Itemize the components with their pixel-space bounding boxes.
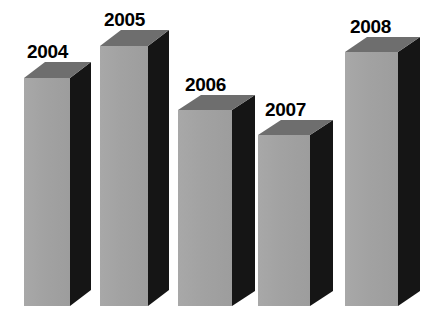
- bar-side-face-2008: [398, 37, 420, 306]
- bar-front-face-2008: [345, 52, 398, 306]
- bar-label-2005: 2005: [104, 10, 145, 29]
- bar-chart: 20042005200620072008: [0, 0, 431, 322]
- bar-label-2006: 2006: [185, 75, 226, 94]
- bar-label-2004: 2004: [27, 42, 68, 61]
- bar-label-2007: 2007: [265, 100, 306, 119]
- bar-label-2008: 2008: [350, 17, 391, 36]
